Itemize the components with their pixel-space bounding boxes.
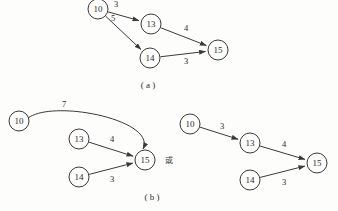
edge-weight-label: 7 [62,99,66,109]
edge-a-10-14: 5 [106,13,141,49]
node-15[interactable]: 15 [135,150,155,170]
figure-canvas: 354310131415( a )7431013141534310131415或… [0,0,338,211]
graph-b-right: 34310131415 [180,114,327,190]
edge-b-14-15: 3 [89,163,133,184]
edge-br-14-15: 3 [260,166,305,187]
panel-caption-b: ( b ) [145,192,160,202]
edge-a-14-15: 3 [160,51,205,65]
node-10[interactable]: 10 [9,111,29,131]
node-14[interactable]: 14 [140,48,160,68]
edge-weight-label: 3 [110,174,114,184]
graph-b-left: 74310131415 [9,99,155,187]
edge-br-10-13: 3 [200,121,238,139]
node-15[interactable]: 15 [208,40,228,60]
node-label: 13 [246,138,256,148]
edge-b-13-15: 4 [89,134,133,156]
node-15[interactable]: 15 [307,153,327,173]
node-14[interactable]: 14 [69,167,89,187]
node-10[interactable]: 10 [88,0,108,19]
node-14[interactable]: 14 [240,170,260,190]
node-label: 13 [75,134,85,144]
edge-weight-label: 4 [184,23,189,33]
graph-a-main: 354310131415 [88,0,228,68]
panel-a: 354310131415( a ) [88,0,228,90]
conjunction-label: 或 [165,155,173,165]
node-label: 15 [214,45,224,55]
node-13[interactable]: 13 [240,133,260,153]
node-label: 15 [313,158,323,168]
edge-weight-label: 5 [111,13,115,23]
edge-path [89,142,133,156]
edge-path [260,166,305,177]
panel-b: 7431013141534310131415或( b ) [9,99,327,202]
edge-weight-label: 4 [110,134,115,144]
edge-path [89,163,133,174]
node-10[interactable]: 10 [180,114,200,134]
node-label: 13 [147,19,157,29]
graph-figure: 354310131415( a )7431013141534310131415或… [0,0,338,211]
node-label: 14 [246,175,256,185]
node-label: 15 [141,155,151,165]
node-label: 14 [75,172,85,182]
panel-caption-a: ( a ) [141,80,156,90]
node-13[interactable]: 13 [141,14,161,34]
node-label: 10 [94,4,104,14]
edge-weight-label: 3 [114,0,118,9]
edge-weight-label: 3 [282,177,286,187]
edge-a-13-15: 4 [161,23,207,46]
node-label: 14 [146,53,156,63]
edge-weight-label: 3 [184,56,188,66]
node-13[interactable]: 13 [69,129,89,149]
node-label: 10 [186,119,196,129]
edge-weight-label: 3 [220,121,224,131]
node-label: 10 [15,116,25,126]
edge-weight-label: 4 [282,139,287,149]
edge-br-13-15: 4 [260,139,305,159]
